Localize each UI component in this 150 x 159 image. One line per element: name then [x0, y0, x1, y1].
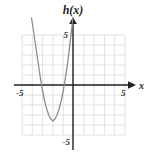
function-name-label: h(x) [63, 3, 84, 17]
y-axis-tick-label-minus5: -5 [63, 137, 71, 147]
coordinate-plane-svg: 5 -5 -5 5 h(x) x [0, 0, 150, 159]
y-axis-tick-label-5: 5 [64, 30, 69, 40]
parabola-graph-figure: 5 -5 -5 5 h(x) x [0, 0, 150, 159]
x-axis-name-label: x [138, 80, 144, 91]
x-axis-tick-label-5: 5 [121, 88, 126, 98]
x-axis-tick-label-minus5: -5 [16, 88, 24, 98]
x-axis-arrowhead [128, 81, 136, 89]
